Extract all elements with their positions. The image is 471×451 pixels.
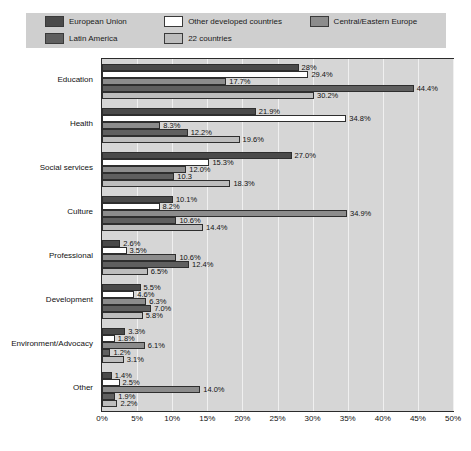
bar-value-label: 30.2%	[317, 91, 338, 100]
bar-row: 3.3%	[102, 328, 453, 335]
x-tick-label: 15%	[199, 414, 215, 423]
chart-page: European Union Other developed countries…	[0, 0, 471, 451]
bar-group-professional: 2.6%3.5%10.6%12.4%6.5%	[102, 235, 453, 279]
bar[interactable]	[102, 379, 120, 386]
bar-row: 1.2%	[102, 349, 453, 356]
bar-row: 3.1%	[102, 356, 453, 363]
x-tick-label: 30%	[305, 414, 321, 423]
bar[interactable]	[102, 152, 292, 159]
bar-row: 2.6%	[102, 240, 453, 247]
bar-row: 8.2%	[102, 203, 453, 210]
bar[interactable]	[102, 122, 160, 129]
bar[interactable]	[102, 386, 200, 393]
bar-row: 34.8%	[102, 115, 453, 122]
bar[interactable]	[102, 71, 308, 78]
bar-row: 10.1%	[102, 196, 453, 203]
x-tick-label: 35%	[340, 414, 356, 423]
category-label-social-services: Social services	[40, 163, 93, 172]
bar[interactable]	[102, 78, 226, 85]
bar-row: 1.9%	[102, 393, 453, 400]
legend-label-latin-america: Latin America	[69, 34, 117, 43]
bar[interactable]	[102, 284, 141, 291]
bar-row: 1.4%	[102, 372, 453, 379]
category-label-professional: Professional	[49, 251, 93, 260]
bar[interactable]	[102, 261, 189, 268]
bar[interactable]	[102, 291, 134, 298]
x-tick-label: 10%	[164, 414, 180, 423]
bar-row: 34.9%	[102, 210, 453, 217]
bar[interactable]	[102, 180, 230, 187]
x-tick-label: 0%	[96, 414, 108, 423]
bar[interactable]	[102, 115, 346, 122]
x-tick-label: 25%	[269, 414, 285, 423]
bar[interactable]	[102, 108, 256, 115]
bar[interactable]	[102, 129, 188, 136]
category-axis-labels: EducationHealthSocial servicesCulturePro…	[0, 58, 99, 412]
bar-row: 12.2%	[102, 129, 453, 136]
legend-label-central-eastern-europe: Central/Eastern Europe	[334, 17, 418, 26]
legend-swatch-european-union	[45, 16, 64, 27]
bar-group-health: 21.9%34.8%8.3%12.2%19.6%	[102, 103, 453, 147]
bar[interactable]	[102, 85, 414, 92]
bar[interactable]	[102, 356, 124, 363]
legend-item-european-union: European Union	[26, 16, 164, 27]
bar-row: 5.5%	[102, 284, 453, 291]
bar-row: 5.8%	[102, 312, 453, 319]
legend-swatch-central-eastern-europe	[310, 16, 329, 27]
legend-label-european-union: European Union	[69, 17, 127, 26]
legend-row-2: Latin America 22 countries	[26, 30, 446, 47]
bar[interactable]	[102, 217, 176, 224]
bar[interactable]	[102, 240, 120, 247]
bar-row: 30.2%	[102, 92, 453, 99]
bar[interactable]	[102, 305, 151, 312]
bar-group-social-services: 27.0%15.3%12.0%10.318.3%	[102, 147, 453, 191]
bar[interactable]	[102, 268, 148, 275]
bar[interactable]	[102, 372, 112, 379]
category-label-culture: Culture	[67, 207, 93, 216]
bar[interactable]	[102, 349, 110, 356]
bar-row: 17.7%	[102, 78, 453, 85]
bar-value-label: 14.4%	[206, 223, 227, 232]
bar-row: 2.2%	[102, 400, 453, 407]
x-tick-label: 20%	[234, 414, 250, 423]
legend-label-other-developed-countries: Other developed countries	[188, 17, 282, 26]
bar-group-development: 5.5%4.6%6.3%7.0%5.8%	[102, 279, 453, 323]
category-label-education: Education	[57, 75, 93, 84]
bar[interactable]	[102, 173, 174, 180]
gridline-50%	[453, 59, 454, 411]
bar[interactable]	[102, 393, 115, 400]
bar[interactable]	[102, 64, 299, 71]
legend-swatch-latin-america	[45, 33, 64, 44]
bar-row: 44.4%	[102, 85, 453, 92]
bar[interactable]	[102, 224, 203, 231]
bar-row: 29.4%	[102, 71, 453, 78]
bar-row: 27.0%	[102, 152, 453, 159]
bar[interactable]	[102, 312, 143, 319]
bar-row: 28%	[102, 64, 453, 71]
bar-value-label: 3.1%	[127, 355, 144, 364]
bar[interactable]	[102, 254, 176, 261]
bar-groups: 28%29.4%17.7%44.4%30.2%21.9%34.8%8.3%12.…	[102, 59, 453, 411]
bar[interactable]	[102, 298, 146, 305]
x-tick-label: 45%	[410, 414, 426, 423]
bar-row: 12.0%	[102, 166, 453, 173]
bar[interactable]	[102, 247, 127, 254]
chart-legend: European Union Other developed countries…	[26, 13, 446, 48]
bar-row: 2.5%	[102, 379, 453, 386]
bar[interactable]	[102, 203, 160, 210]
bar-value-label: 19.6%	[243, 135, 264, 144]
bar-row: 21.9%	[102, 108, 453, 115]
category-label-environment-advocacy: Environment/Advocacy	[11, 339, 93, 348]
bar[interactable]	[102, 400, 117, 407]
category-label-health: Health	[70, 119, 93, 128]
bar[interactable]	[102, 166, 186, 173]
bar[interactable]	[102, 335, 115, 342]
bar-row: 8.3%	[102, 122, 453, 129]
bar[interactable]	[102, 210, 347, 217]
bar[interactable]	[102, 136, 240, 143]
bar[interactable]	[102, 92, 314, 99]
legend-item-other-developed-countries: Other developed countries	[164, 16, 309, 27]
bar-row: 14.0%	[102, 386, 453, 393]
bar-row: 14.4%	[102, 224, 453, 231]
category-label-development: Development	[46, 295, 93, 304]
